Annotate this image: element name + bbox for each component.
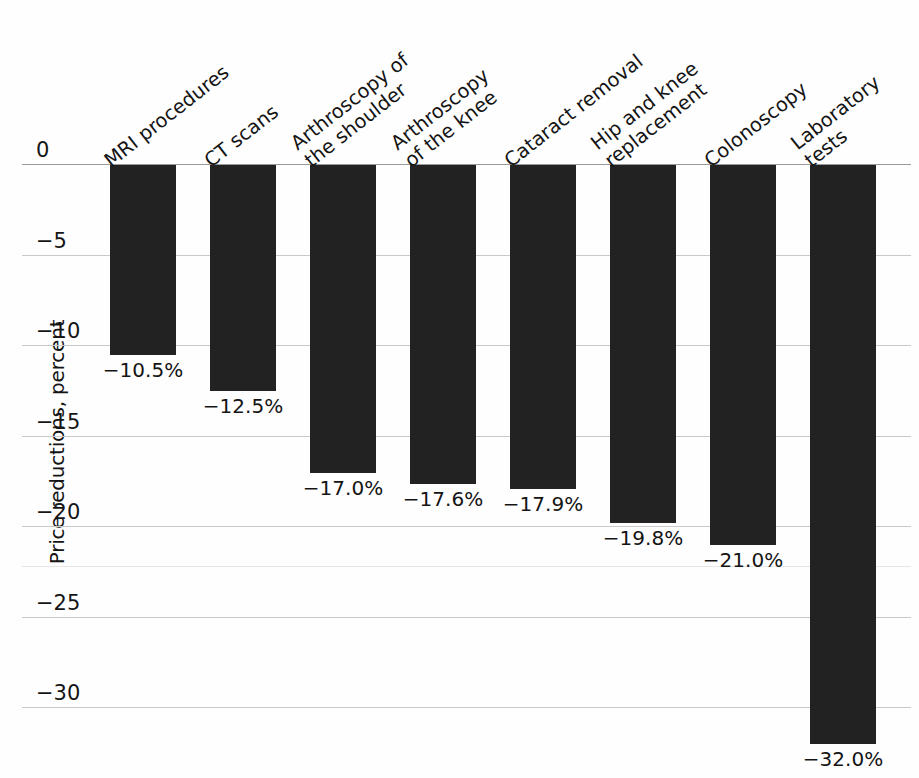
bar-value-label: −19.8% <box>588 526 698 550</box>
bar[interactable] <box>810 165 876 744</box>
bar[interactable] <box>610 165 676 523</box>
category-label: Colonoscopy <box>701 78 812 171</box>
bar[interactable] <box>710 165 776 545</box>
bar-chart: Price reductions, percent 0−5−10−15−20−2… <box>0 0 919 778</box>
bar-value-label: −17.9% <box>488 492 598 516</box>
bar-value-label: −17.0% <box>288 476 398 500</box>
bar[interactable] <box>410 165 476 484</box>
bar-value-label: −32.0% <box>788 747 898 771</box>
bar[interactable] <box>110 165 176 355</box>
bar-value-label: −21.0% <box>688 548 798 572</box>
bar[interactable] <box>210 165 276 391</box>
bar[interactable] <box>510 165 576 489</box>
bar-value-label: −10.5% <box>88 358 198 382</box>
category-label: CT scans <box>201 101 283 172</box>
plot-area: −10.5%MRI procedures−12.5%CT scans−17.0%… <box>0 0 919 778</box>
bar-value-label: −12.5% <box>188 394 298 418</box>
bar-value-label: −17.6% <box>388 487 498 511</box>
bar[interactable] <box>310 165 376 473</box>
